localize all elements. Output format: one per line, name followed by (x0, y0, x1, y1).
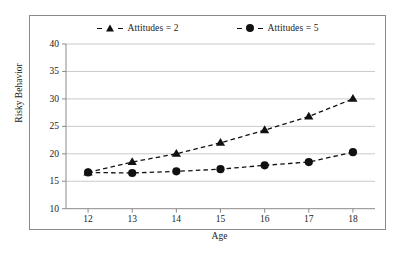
plot-area (0, 0, 410, 267)
y-tick-label: 15 (33, 176, 59, 186)
x-tick-label: 13 (120, 214, 144, 224)
data-point-triangle (348, 94, 357, 102)
y-axis-title: Risky Behavior (14, 48, 24, 138)
y-tick-label: 25 (33, 121, 59, 131)
data-point-circle (216, 165, 224, 173)
x-tick-label: 17 (297, 214, 321, 224)
x-tick-label: 15 (209, 214, 233, 224)
x-tick-label: 14 (164, 214, 188, 224)
data-point-circle (305, 158, 313, 166)
y-tick-label: 30 (33, 94, 59, 104)
x-axis-title: Age (66, 231, 373, 241)
x-tick-label: 16 (253, 214, 277, 224)
data-point-circle (349, 148, 357, 156)
y-tick-label: 40 (33, 39, 59, 49)
y-tick-label: 10 (33, 204, 59, 214)
data-point-circle (84, 168, 92, 176)
y-tick-label: 35 (33, 66, 59, 76)
data-point-circle (128, 169, 136, 177)
x-tick-label: 12 (76, 214, 100, 224)
y-tick-label: 20 (33, 149, 59, 159)
x-tick-label: 18 (341, 214, 365, 224)
data-point-circle (261, 161, 269, 169)
risky-behavior-chart: Attitudes = 2 Attitudes = 5 Risky Behavi… (0, 0, 410, 267)
data-point-circle (172, 167, 180, 175)
